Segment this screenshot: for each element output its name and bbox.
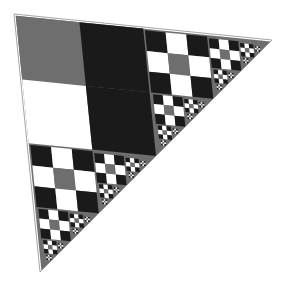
unit-cell-d4-1-1	[230, 74, 232, 76]
unit-cell-d4-0-0	[161, 140, 163, 142]
unit-cell-d4-1-2	[117, 189, 119, 191]
unit-cell-d4-2-1	[116, 191, 118, 193]
unit-cell-d3-2-2	[194, 109, 199, 114]
unit-cell-d3-1-2	[135, 163, 140, 168]
unit-cell-d2-1-1	[164, 105, 175, 116]
unit-cell-d3-0-1	[162, 126, 167, 131]
unit-cell-d3-1-0	[185, 103, 190, 108]
unit-cell-d2-0-0	[94, 153, 105, 164]
unit-cell-d1-1-1	[53, 168, 76, 191]
unit-cell-d4-2-1	[60, 247, 62, 249]
unit-cell-d3-0-1	[130, 158, 135, 163]
unit-cell-d3-0-1	[47, 240, 52, 245]
unit-cell-d2-0-2	[114, 155, 125, 166]
unit-cell-d4-0-0	[187, 114, 189, 116]
unit-cell-d4-1-1	[74, 230, 76, 232]
unit-cell-d4-2-0	[102, 202, 104, 204]
unit-cell-d3-0-2	[193, 100, 198, 105]
unit-cell-d4-1-0	[102, 201, 104, 203]
unit-cell-d4-2-1	[163, 144, 165, 146]
unit-cell-d4-2-0	[129, 176, 131, 178]
unit-cell-d2-2-2	[230, 60, 241, 71]
unit-cell-d4-0-0	[73, 228, 75, 230]
unit-cell-d4-0-1	[74, 229, 76, 231]
unit-cell-d4-0-2	[132, 173, 134, 175]
unit-cell-d4-2-1	[219, 88, 221, 90]
unit-cell-d4-1-1	[218, 86, 220, 88]
unit-cell-d4-2-0	[243, 61, 245, 63]
unit-cell-d2-1-2	[115, 165, 126, 176]
unit-cell-d4-1-0	[199, 104, 201, 106]
unit-cell-d2-0-1	[48, 210, 59, 221]
unit-cell-d4-1-1	[189, 116, 191, 118]
unit-cell-d3-1-1	[104, 189, 109, 194]
unit-cell-d3-1-1	[48, 245, 53, 250]
main-center-block-1-1	[86, 86, 156, 156]
fractal-canvas	[0, 0, 286, 287]
unit-cell-d4-0-0	[58, 243, 60, 245]
unit-cell-d4-0-2	[117, 188, 119, 190]
unit-cell-d2-1-0	[154, 104, 165, 115]
unit-cell-d4-1-0	[161, 142, 163, 144]
unit-cell-d3-2-2	[109, 194, 114, 199]
unit-cell-d2-1-2	[59, 221, 70, 232]
unit-cell-d2-1-2	[229, 50, 240, 61]
unit-cell-d3-0-0	[43, 240, 48, 245]
unit-cell-d2-0-1	[104, 154, 115, 165]
unit-cell-d3-0-0	[158, 125, 163, 130]
unit-cell-d3-1-0	[44, 244, 49, 249]
unit-cell-d3-2-1	[48, 249, 53, 254]
unit-cell-d2-2-0	[96, 173, 107, 184]
unit-cell-d4-1-2	[258, 48, 260, 50]
unit-cell-d3-1-2	[223, 75, 228, 80]
unit-cell-d3-2-2	[53, 250, 58, 255]
unit-cell-d2-1-2	[174, 106, 185, 117]
unit-cell-d4-1-0	[243, 60, 245, 62]
unit-cell-d4-0-1	[104, 199, 106, 201]
unit-cell-d4-0-2	[76, 229, 78, 231]
unit-cell-d3-0-1	[218, 70, 223, 75]
unit-cell-d3-2-2	[167, 135, 172, 140]
unit-cell-d3-2-0	[126, 166, 131, 171]
unit-cell-d4-1-0	[187, 115, 189, 117]
unit-cell-d4-2-1	[201, 105, 203, 107]
unit-cell-d4-2-0	[58, 246, 60, 248]
unit-cell-d2-1-1	[220, 49, 231, 60]
unit-cell-d1-1-0	[147, 51, 170, 74]
unit-cell-d2-1-1	[49, 220, 60, 231]
unit-cell-d2-0-2	[58, 211, 69, 222]
unit-cell-d2-0-2	[173, 96, 184, 107]
unit-cell-d3-2-0	[241, 52, 246, 57]
unit-cell-d4-1-0	[46, 257, 48, 259]
unit-cell-d4-2-1	[175, 132, 177, 134]
unit-cell-d4-1-0	[58, 245, 60, 247]
unit-cell-d4-2-0	[141, 164, 143, 166]
unit-cell-d2-2-1	[221, 59, 232, 70]
unit-cell-d4-1-2	[105, 201, 107, 203]
unit-cell-d4-2-0	[188, 117, 190, 119]
unit-cell-d4-2-1	[75, 232, 77, 234]
unit-cell-d1-0-0	[30, 145, 53, 168]
unit-cell-d4-1-2	[76, 230, 78, 232]
unit-cell-d3-2-2	[79, 223, 84, 228]
unit-cell-d4-0-0	[84, 217, 86, 219]
unit-cell-d4-0-2	[49, 255, 51, 257]
unit-cell-d4-1-2	[88, 219, 90, 221]
unit-cell-d4-1-1	[86, 218, 88, 220]
unit-cell-d4-2-0	[85, 220, 87, 222]
unit-cell-d4-1-2	[50, 257, 52, 259]
unit-cell-d4-2-1	[86, 220, 88, 222]
unit-cell-d4-1-1	[104, 201, 106, 203]
unit-cell-d2-1-0	[95, 163, 106, 174]
unit-cell-d1-1-2	[74, 170, 97, 193]
unit-cell-d3-2-1	[245, 52, 250, 57]
unit-cell-d2-2-2	[175, 116, 186, 127]
unit-cell-d4-0-0	[255, 46, 257, 48]
unit-cell-d4-0-1	[218, 85, 220, 87]
main-center-block-0-0	[16, 16, 86, 86]
unit-cell-d4-1-2	[144, 163, 146, 165]
unit-cell-d3-0-2	[166, 126, 171, 131]
unit-cell-d2-2-0	[211, 58, 222, 69]
unit-cell-d2-1-0	[39, 219, 50, 230]
unit-cell-d4-0-0	[228, 73, 230, 75]
